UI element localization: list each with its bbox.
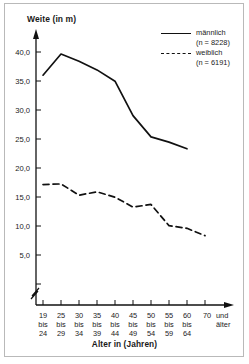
x-tick-label: 60 bis 64 — [176, 311, 198, 339]
y-tick-label: 40,0 — [4, 48, 30, 57]
x-tick-line-2: und — [216, 311, 246, 320]
legend-entry-maennlich: männlich — [161, 29, 245, 38]
y-tick-label: 15,0 — [4, 193, 30, 202]
x-axis-title: Alter in (Jahren) — [0, 339, 249, 349]
x-tick-line-3: älter — [216, 320, 246, 329]
x-tick-line-1: 60 — [176, 311, 198, 320]
legend-n-value: (n = 8228) — [196, 38, 230, 47]
x-axis-arrow — [224, 302, 234, 308]
x-tick-label-und-aelter: und älter — [216, 311, 246, 329]
y-tick-label: 10,0 — [4, 222, 30, 231]
x-tick-line-3: 64 — [176, 329, 198, 338]
y-tick-label: 30,0 — [4, 106, 30, 115]
legend-label: weiblich — [196, 48, 222, 57]
y-tick-label: 5,0 — [4, 251, 30, 260]
y-axis-arrow — [33, 29, 39, 39]
series-line-weiblich — [43, 184, 205, 236]
y-tick-label: 20,0 — [4, 164, 30, 173]
y-tick-marks — [36, 52, 41, 284]
legend-line-dashed-icon — [161, 53, 191, 54]
y-tick-label: 25,0 — [4, 135, 30, 144]
x-tick-marks — [43, 300, 205, 305]
legend-n-weiblich: (n = 6191) — [161, 58, 245, 69]
legend-line-solid-icon — [161, 33, 191, 34]
x-tick-line-2: bis — [176, 320, 198, 329]
legend-label: männlich — [196, 28, 226, 37]
legend-entry-weiblich: weiblich — [161, 49, 245, 58]
chart-legend: männlich (n = 8228) weiblich (n = 6191) — [161, 29, 245, 69]
y-tick-label: 35,0 — [4, 77, 30, 86]
x-tick-label: 70 — [196, 311, 218, 320]
legend-n-value: (n = 6191) — [196, 58, 230, 67]
axis-break-icon — [31, 288, 39, 299]
x-tick-line-1: 70 — [196, 311, 218, 320]
